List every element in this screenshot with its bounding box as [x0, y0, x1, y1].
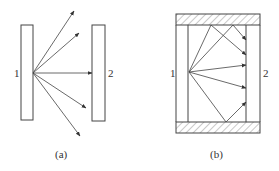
reflected-ray-arrow-icon	[189, 25, 246, 72]
plate-2-label: 2	[263, 67, 269, 79]
ray-arrow-icon	[189, 72, 246, 88]
caption-b: (b)	[210, 148, 223, 161]
ray-arrow-icon	[189, 65, 246, 72]
plate-1-label: 1	[14, 67, 20, 79]
radiation-diagram: 1 2 (a) 1 2 (b)	[0, 0, 279, 171]
plate-2-label: 2	[108, 67, 114, 79]
caption-a: (a)	[55, 148, 68, 161]
ray-arrow-icon	[33, 73, 86, 108]
panel-a: 1 2 (a)	[14, 11, 114, 161]
rays-a	[33, 11, 92, 136]
reflected-ray-arrow-icon	[189, 25, 246, 72]
reflected-ray-arrow-icon	[189, 72, 246, 122]
top-wall	[176, 14, 260, 25]
plate-1	[21, 25, 33, 120]
plate-1-label: 1	[170, 67, 176, 79]
ray-arrow-icon	[33, 11, 74, 73]
ray-arrow-icon	[33, 73, 80, 136]
plate-2	[92, 25, 105, 121]
ray-arrow-icon	[33, 33, 79, 73]
rays-b	[189, 25, 246, 122]
bottom-wall	[176, 122, 260, 133]
panel-b: 1 2 (b)	[170, 14, 269, 161]
